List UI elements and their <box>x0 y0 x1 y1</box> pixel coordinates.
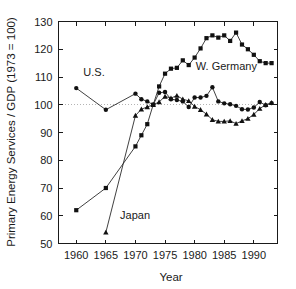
data-point-square <box>246 47 250 51</box>
data-point-circle <box>139 97 143 101</box>
data-point-triangle <box>174 93 179 98</box>
y-tick-label: 130 <box>34 16 52 28</box>
data-point-circle <box>234 104 238 108</box>
data-point-square <box>74 208 78 212</box>
data-point-triangle <box>233 121 238 126</box>
x-tick-label: 1965 <box>94 249 118 261</box>
data-point-circle <box>192 95 196 99</box>
annotation-w-germany: W. Germany <box>196 60 258 72</box>
data-point-triangle <box>245 116 250 121</box>
data-point-square <box>151 103 155 107</box>
data-point-square <box>204 36 208 40</box>
y-axis-title: Primary Energy Services / GDP (1973 = 10… <box>5 17 17 247</box>
data-point-square <box>228 39 232 43</box>
data-point-circle <box>187 105 191 109</box>
data-point-circle <box>228 102 232 106</box>
y-tick-label: 100 <box>34 99 52 111</box>
y-tick-label: 50 <box>40 238 52 250</box>
data-point-circle <box>163 90 167 94</box>
data-point-square <box>264 61 268 65</box>
data-point-circle <box>222 101 226 105</box>
data-point-square <box>181 58 185 62</box>
data-point-circle <box>252 105 256 109</box>
data-point-square <box>145 122 149 126</box>
data-point-triangle <box>198 107 203 112</box>
data-point-square <box>210 33 214 37</box>
data-point-circle <box>145 99 149 103</box>
data-point-square <box>222 33 226 37</box>
data-point-circle <box>246 107 250 111</box>
data-point-square <box>240 42 244 46</box>
data-point-square <box>157 84 161 88</box>
data-point-square <box>169 67 173 71</box>
data-point-circle <box>133 91 137 95</box>
series-u-s <box>74 85 274 112</box>
data-point-square <box>133 144 137 148</box>
x-tick-label: 1970 <box>123 249 147 261</box>
x-axis-title: Year <box>159 271 182 283</box>
x-tick-label: 1980 <box>182 249 206 261</box>
data-point-triangle <box>103 230 108 235</box>
y-axis-ticks: 5060708090100110120130 <box>34 16 277 250</box>
data-point-square <box>175 66 179 70</box>
chart-figure: 5060708090100110120130 19601965197019751… <box>0 0 296 289</box>
data-point-circle <box>204 94 208 98</box>
data-point-circle <box>210 85 214 89</box>
data-point-circle <box>175 98 179 102</box>
energy-intensity-line-chart: 5060708090100110120130 19601965197019751… <box>0 0 296 289</box>
x-tick-label: 1985 <box>212 249 236 261</box>
x-tick-label: 1975 <box>153 249 177 261</box>
data-point-circle <box>104 108 108 112</box>
annotation-japan: Japan <box>120 209 150 221</box>
data-point-square <box>269 61 273 65</box>
data-point-circle <box>240 107 244 111</box>
data-point-circle <box>258 100 262 104</box>
plot-frame <box>59 22 278 244</box>
y-tick-label: 110 <box>35 71 53 83</box>
data-point-square <box>258 59 262 63</box>
data-point-circle <box>198 95 202 99</box>
data-point-square <box>187 63 191 67</box>
x-axis-ticks: 1960196519701975198019851990 <box>64 22 266 261</box>
y-tick-label: 70 <box>40 182 52 194</box>
y-tick-label: 120 <box>34 43 52 55</box>
data-point-square <box>163 72 167 76</box>
data-point-square <box>198 46 202 50</box>
y-tick-label: 90 <box>40 127 52 139</box>
data-point-triangle <box>180 97 185 102</box>
x-tick-label: 1960 <box>64 249 88 261</box>
data-point-square <box>104 186 108 190</box>
data-point-square <box>139 133 143 137</box>
x-tick-label: 1990 <box>242 249 266 261</box>
y-tick-label: 60 <box>40 210 52 222</box>
data-point-square <box>252 53 256 57</box>
data-point-circle <box>216 99 220 103</box>
annotation-u-s: U.S. <box>83 66 104 78</box>
series-annotations: U.S.JapanW. Germany <box>83 60 257 221</box>
data-point-square <box>216 35 220 39</box>
data-point-circle <box>74 86 78 90</box>
data-point-square <box>234 31 238 35</box>
series-line <box>76 87 271 109</box>
y-tick-label: 80 <box>40 154 52 166</box>
data-point-triangle <box>257 106 262 111</box>
